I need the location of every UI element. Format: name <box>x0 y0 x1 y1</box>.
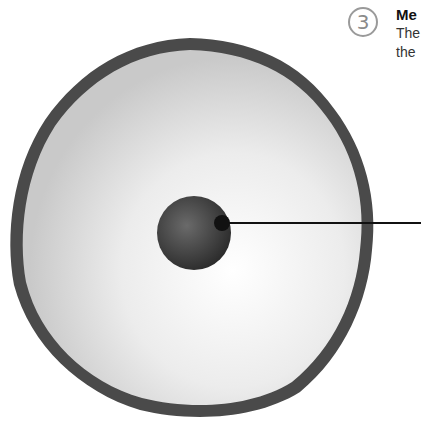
label-body-line-2: the <box>396 43 420 62</box>
step-number-badge: 3 <box>348 7 378 37</box>
nucleus <box>157 196 231 270</box>
label-title: Me <box>396 6 417 23</box>
cell-diagram <box>0 0 421 434</box>
label-body-line-1: The <box>396 24 420 43</box>
label-body: The the <box>396 24 420 62</box>
step-number: 3 <box>357 10 370 34</box>
